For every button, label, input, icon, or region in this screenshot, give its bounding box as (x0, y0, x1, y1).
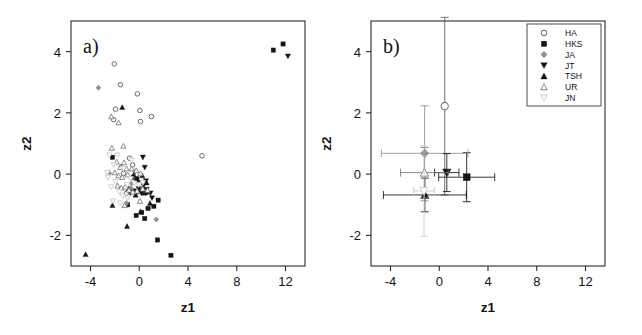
series-jt (128, 54, 291, 201)
legend-marker-open-circle (541, 30, 547, 36)
data-point (106, 175, 111, 180)
data-point (135, 92, 140, 97)
data-point (96, 85, 101, 90)
data-point (281, 42, 285, 46)
data-point (112, 170, 117, 175)
y-axis-title: z2 (19, 136, 34, 150)
data-point (124, 224, 129, 229)
data-point (109, 114, 114, 119)
legend-label: TSH (565, 71, 582, 81)
data-point (125, 196, 130, 201)
data-point (134, 213, 138, 217)
data-point (111, 163, 116, 168)
y-axis-tick-label: 2 (354, 106, 361, 121)
data-point (146, 206, 150, 210)
panel-label: a) (83, 35, 99, 58)
data-point (109, 145, 114, 150)
data-point (121, 160, 126, 165)
data-point (112, 62, 117, 67)
x-axis-tick-label: 8 (533, 274, 540, 289)
data-point (271, 48, 275, 52)
data-point (137, 198, 142, 203)
data-point (143, 216, 147, 220)
y-axis-tick-label: 0 (54, 167, 61, 182)
x-axis-tick-label: 0 (136, 274, 143, 289)
x-axis-tick-label: -4 (385, 274, 397, 289)
data-point (83, 252, 88, 257)
x-axis-tick-label: -4 (85, 274, 97, 289)
panel-a: -404812-2024z1z2a) (0, 0, 321, 335)
y-axis-title: z2 (321, 136, 334, 150)
data-point (110, 199, 115, 204)
x-axis-tick-label: 12 (278, 274, 292, 289)
figure-root: -404812-2024z1z2a) -404812-2024z1z2b)HAH… (0, 0, 642, 335)
data-point (142, 165, 147, 170)
data-point (115, 153, 120, 158)
legend-label: HKS (565, 39, 583, 49)
data-point (200, 153, 205, 158)
data-point (138, 119, 143, 124)
legend-label: HA (565, 28, 577, 38)
x-axis-tick-label: 4 (184, 274, 191, 289)
series-ha (111, 62, 204, 196)
y-axis-tick-label: 0 (354, 167, 361, 182)
legend-box (527, 24, 601, 106)
data-point (113, 107, 118, 112)
y-axis-tick-label: 4 (354, 45, 361, 60)
x-axis-tick-label: 8 (233, 274, 240, 289)
legend: HAHKSJAJTTSHURJN (527, 24, 601, 106)
mean-marker (441, 102, 448, 109)
data-point (155, 238, 159, 242)
data-point (169, 253, 173, 257)
data-point (109, 185, 114, 190)
y-axis-tick-label: 4 (54, 45, 61, 60)
mean-tsh (383, 178, 466, 212)
legend-label: UR (565, 82, 577, 92)
axes-group: -404812-2024z1z2a) (19, 21, 305, 315)
panel-b: -404812-2024z1z2b)HAHKSJAJTTSHURJN (321, 0, 642, 335)
y-axis-tick-label: -2 (49, 228, 61, 243)
mean-jn (414, 146, 435, 237)
data-point (140, 155, 145, 160)
x-axis-title: z1 (481, 300, 496, 315)
legend-label: JN (565, 93, 575, 103)
data-point (149, 196, 154, 201)
data-point (120, 105, 125, 110)
x-axis-tick-label: 4 (484, 274, 491, 289)
panel-label: b) (383, 35, 400, 58)
mean-ha (441, 17, 449, 195)
x-axis-title: z1 (181, 300, 196, 315)
y-axis-tick-label: 2 (54, 106, 61, 121)
legend-label: JA (565, 50, 575, 60)
plot-frame (71, 21, 305, 266)
panel-a-canvas: -404812-2024z1z2a) (0, 0, 321, 335)
data-point (110, 155, 114, 159)
data-point (285, 54, 290, 59)
data-point (118, 201, 123, 206)
data-point (121, 143, 126, 148)
data-point (156, 198, 160, 202)
data-point (138, 108, 143, 113)
legend-marker-filled-square (541, 41, 546, 46)
mean-marker (463, 174, 470, 181)
series-hks (110, 42, 285, 258)
panel-b-canvas: -404812-2024z1z2b)HAHKSJAJTTSHURJN (321, 0, 642, 335)
data-point (120, 194, 125, 199)
x-axis-tick-label: 0 (436, 274, 443, 289)
data-point (118, 82, 123, 87)
data-point (116, 120, 121, 125)
data-point (147, 201, 152, 206)
data-point (149, 114, 154, 119)
data-point (110, 203, 115, 208)
scatter-points-group (83, 42, 291, 258)
data-point (154, 217, 159, 222)
y-axis-tick-label: -2 (349, 228, 361, 243)
legend-label: JT (565, 61, 574, 71)
x-axis-tick-label: 12 (578, 274, 592, 289)
